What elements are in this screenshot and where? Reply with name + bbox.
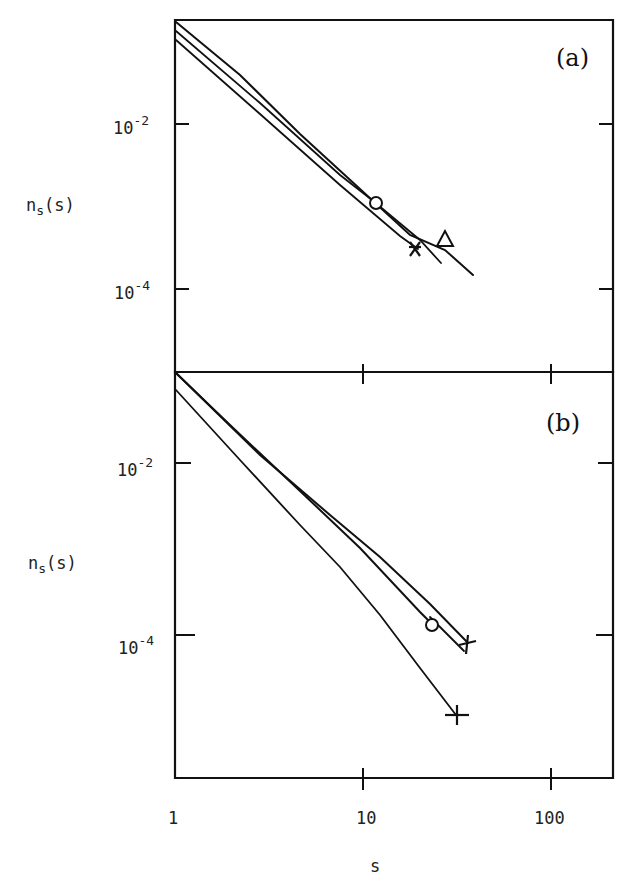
cross-upper-series-line xyxy=(176,373,468,643)
star-marker xyxy=(409,242,421,256)
figure-canvas xyxy=(0,0,634,893)
cross-marker-upper xyxy=(459,635,476,654)
panel-b-ytick-1e-4: 10-4 xyxy=(118,635,154,658)
cross-marker-lower xyxy=(445,705,469,725)
panel-b-y-ticks xyxy=(175,463,613,635)
panel-a-frame xyxy=(175,20,613,372)
cross-lower-series-line xyxy=(176,390,456,715)
panel-a-label: (a) xyxy=(556,44,589,72)
star-series-line xyxy=(176,40,418,249)
panel-b-label: (b) xyxy=(546,409,580,437)
shared-x-ticks xyxy=(363,364,551,384)
xtick-100: 100 xyxy=(534,808,565,828)
xtick-1: 1 xyxy=(168,808,178,828)
panel-a-y-ticks xyxy=(175,124,613,289)
panel-a-ytick-1e-4: 10-4 xyxy=(114,280,150,303)
panel-a-curves xyxy=(176,22,473,275)
triangle-marker xyxy=(437,231,453,246)
circle-marker xyxy=(370,197,382,209)
panel-a-ytick-1e-2: 10-2 xyxy=(113,115,149,138)
x-axis-label: s xyxy=(370,856,380,876)
xtick-10: 10 xyxy=(356,808,376,828)
triangle-series-line xyxy=(176,22,473,275)
circle-marker xyxy=(426,619,438,631)
panel-b-curves xyxy=(176,373,468,715)
panel-b-ylabel: ns(s) xyxy=(28,553,77,576)
panel-b-ytick-1e-2: 10-2 xyxy=(117,457,153,480)
panel-a-ylabel: ns(s) xyxy=(26,195,75,218)
